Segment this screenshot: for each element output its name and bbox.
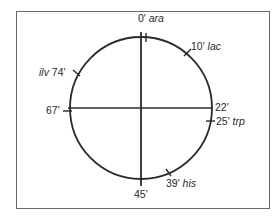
marker-gene: ilv: [39, 66, 49, 78]
marker-gene: trp: [233, 115, 245, 127]
marker-minute: 10': [191, 40, 205, 52]
marker-label-lac: 10' lac: [191, 41, 221, 52]
marker-gene: his: [183, 177, 196, 189]
marker-label-his: 39' his: [166, 178, 196, 189]
marker-minute: 0': [138, 12, 146, 24]
marker-minute: 67': [46, 104, 60, 116]
marker-label-trp: 25' trp: [216, 116, 245, 127]
marker-minute: 22': [215, 101, 229, 113]
marker-minute: 39': [166, 177, 180, 189]
marker-label-67: 67': [46, 105, 60, 116]
marker-minute: 45': [134, 188, 148, 200]
marker-label-ara: 0' ara: [138, 13, 164, 24]
marker-label-45: 45': [134, 189, 148, 200]
marker-label-ilv: ilv 74': [39, 67, 66, 78]
marker-minute: 25': [216, 115, 230, 127]
marker-gene: lac: [208, 40, 221, 52]
marker-gene: ara: [149, 12, 164, 24]
marker-label-22: 22': [215, 102, 229, 113]
marker-minute: 74': [52, 66, 66, 78]
